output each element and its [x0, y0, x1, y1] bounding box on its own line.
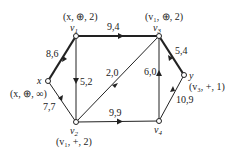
arrow-v4-y-icon — [170, 86, 175, 92]
edge-label-v3-y: 5,4 — [175, 45, 188, 56]
edge-label-v1-v2: 5,2 — [80, 76, 93, 87]
edge-label-x-v1: 8,6 — [46, 48, 59, 59]
edge-label-v2-v4: 9,9 — [109, 107, 122, 118]
node-tag-v1: (x, ⊕, 2) — [63, 11, 98, 23]
node-v4 — [157, 119, 162, 124]
node-label-v1: v1 — [70, 22, 78, 35]
node-y — [182, 73, 187, 78]
node-label-v3: v3 — [153, 22, 161, 35]
arrow-v1-v3-icon — [118, 33, 124, 39]
node-tag-v3: (v₁, ⊕, 2) — [145, 11, 183, 23]
edge-label-v1-v3: 9,4 — [107, 21, 120, 32]
edge-label-v4-y: 10,9 — [176, 94, 194, 105]
arrow-v2-v4-icon — [117, 119, 123, 125]
edge-label-v4-v3: 6,0 — [144, 66, 157, 77]
node-tag-v2: (v₁, +, 2) — [56, 136, 92, 148]
arrow-v1-v2-icon — [73, 78, 79, 84]
node-tag-x: (x, ⊕, ∞) — [10, 88, 47, 100]
node-tag-y: (v₃, +, 1) — [189, 81, 225, 93]
node-label-x: x — [36, 75, 42, 86]
node-x — [46, 79, 51, 84]
node-label-y: y — [188, 70, 194, 81]
arrow-v4-v3-icon — [156, 70, 162, 76]
edge-label-v3-v2: 2,0 — [106, 67, 119, 78]
node-label-v4: v4 — [154, 124, 162, 137]
node-v2 — [74, 120, 79, 125]
flow-network-diagram: x y v1 v3 v2 v4 (x, ⊕, 2) (v₁, ⊕, 2) (x,… — [0, 0, 238, 155]
edge-label-x-v2: 7,7 — [43, 101, 56, 112]
